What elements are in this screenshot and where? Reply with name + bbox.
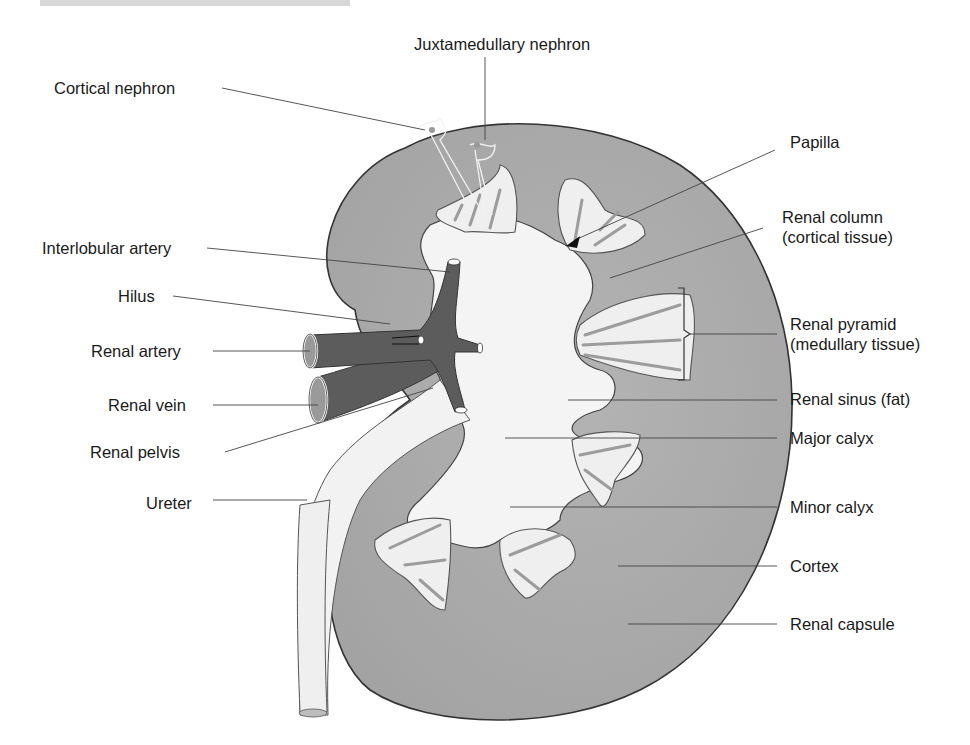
label-ureter: Ureter — [146, 493, 192, 513]
label-renal-column: Renal column (cortical tissue) — [782, 207, 893, 247]
label-major-calyx: Major calyx — [790, 428, 873, 448]
label-renal-capsule: Renal capsule — [790, 614, 895, 634]
label-renal-pyramid: Renal pyramid (medullary tissue) — [790, 314, 920, 354]
label-renal-pyramid-line1: Renal pyramid — [790, 314, 920, 334]
label-juxtamedullary-nephron: Juxtamedullary nephron — [414, 34, 590, 54]
label-renal-sinus: Renal sinus (fat) — [790, 389, 910, 409]
label-renal-vein: Renal vein — [108, 395, 186, 415]
ureter-end — [299, 709, 327, 717]
label-cortical-nephron: Cortical nephron — [54, 78, 175, 98]
label-renal-column-line2: (cortical tissue) — [782, 227, 893, 247]
label-renal-artery: Renal artery — [91, 341, 181, 361]
ureter — [297, 500, 330, 712]
label-renal-pelvis: Renal pelvis — [90, 442, 180, 462]
label-papilla: Papilla — [790, 132, 840, 152]
label-interlobular-artery: Interlobular artery — [42, 238, 171, 258]
label-cortex: Cortex — [790, 556, 839, 576]
label-renal-pyramid-line2: (medullary tissue) — [790, 334, 920, 354]
juxtamedullary-glomerulus — [474, 142, 480, 148]
label-minor-calyx: Minor calyx — [790, 497, 873, 517]
cortical-glomerulus — [429, 127, 435, 133]
label-hilus: Hilus — [118, 286, 155, 306]
label-renal-column-line1: Renal column — [782, 207, 893, 227]
